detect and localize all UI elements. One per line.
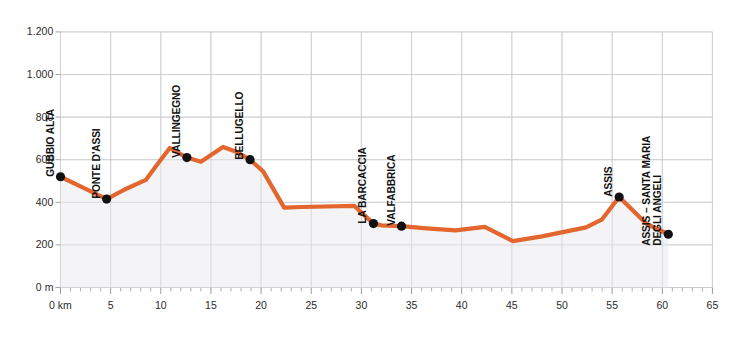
station-label: ASSIS — [604, 167, 615, 197]
x-axis-tick-label: 65 — [672, 300, 737, 311]
station-marker-dot[interactable] — [615, 192, 624, 201]
y-axis-tick-label: 400 — [36, 197, 54, 208]
station-label: GUBBIO ALTA — [46, 109, 57, 177]
station-marker-dot[interactable] — [245, 155, 254, 164]
station-label: VALFABBRICA — [387, 155, 398, 226]
elevation-profile-chart: 0 m2004006008001.0001.2000 km51015202530… — [0, 0, 737, 338]
station-marker-dot[interactable] — [102, 195, 111, 204]
station-marker-dot[interactable] — [664, 230, 673, 239]
y-axis-tick-label: 1.200 — [27, 26, 54, 37]
y-axis-tick-label: 200 — [36, 239, 54, 250]
y-axis-tick-label: 0 m — [36, 282, 54, 293]
station-label: BELLUGELLO — [235, 91, 246, 159]
station-label: VALLINGEGNO — [172, 84, 183, 157]
station-label: ASSIS – SANTA MARIADEGLI ANGELI — [641, 136, 664, 246]
station-marker-dot[interactable] — [397, 222, 406, 231]
y-axis-tick-label: 1.000 — [27, 69, 54, 80]
station-marker-dot[interactable] — [182, 153, 191, 162]
station-label: LA BARCACCIA — [359, 147, 370, 224]
station-marker-dot[interactable] — [369, 219, 378, 228]
station-marker-dot[interactable] — [56, 172, 65, 181]
station-label: PONTE D'ASSI — [92, 129, 103, 199]
